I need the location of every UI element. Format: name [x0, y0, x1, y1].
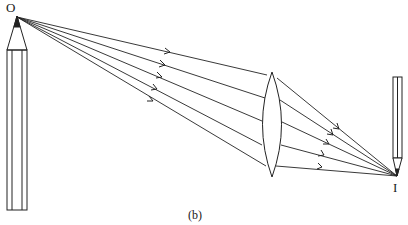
image-pencil [393, 77, 402, 176]
object-pencil [7, 16, 27, 210]
object-point-label: O [6, 0, 15, 16]
biconvex-lens [263, 72, 282, 177]
refracted-rays [276, 78, 397, 176]
ray-diagram [0, 0, 408, 225]
incident-arrow-icons [147, 48, 170, 101]
figure-caption: (b) [188, 208, 202, 223]
image-point-label: I [393, 180, 397, 196]
refracted-arrow-icons [317, 123, 339, 169]
incident-rays [17, 17, 267, 166]
